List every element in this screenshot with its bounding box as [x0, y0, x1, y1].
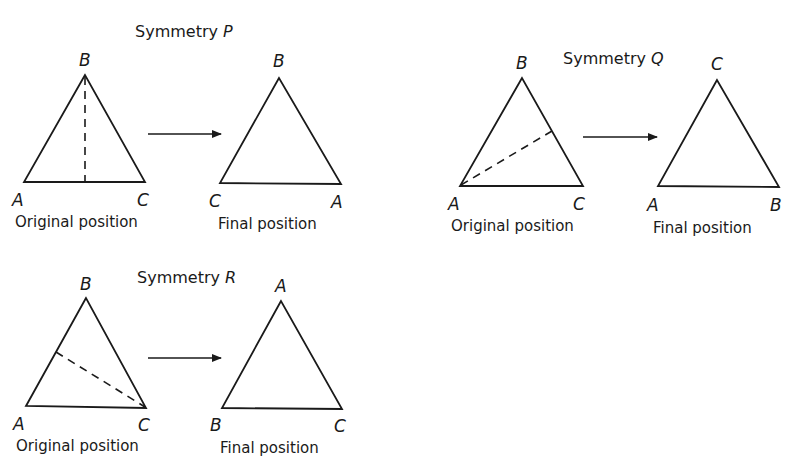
panel-symmetry-q: Symmetry Q B A C Original position C A B…: [447, 49, 782, 237]
caption: Final position: [653, 219, 752, 237]
vertex-label-top: B: [273, 51, 285, 71]
symmetry-axis: [461, 131, 552, 185]
symmetry-axis: [56, 352, 145, 407]
vertex-label-bottom-right: C: [137, 190, 149, 210]
vertex-label-top: A: [274, 276, 287, 296]
symmetry-diagram: Symmetry P B A C Original position B C A…: [0, 0, 802, 471]
vertex-label-bottom-right: C: [138, 415, 150, 435]
original-triangle: B A C Original position: [447, 53, 585, 235]
original-triangle: B A C Original position: [11, 50, 149, 231]
vertex-label-top: B: [79, 50, 91, 70]
final-triangle: A B C Final position: [210, 276, 346, 457]
triangle-shape: [222, 301, 342, 409]
vertex-label-bottom-left: A: [646, 195, 659, 215]
vertex-label-bottom-right: C: [573, 194, 585, 214]
final-triangle: B C A Final position: [209, 51, 343, 233]
triangle-shape: [26, 298, 146, 408]
vertex-label-bottom-left: C: [209, 191, 221, 211]
caption: Final position: [220, 439, 319, 457]
panel-title: Symmetry Q: [563, 49, 664, 68]
vertex-label-top: C: [711, 54, 723, 74]
panel-symmetry-p: Symmetry P B A C Original position B C A…: [11, 22, 343, 233]
caption: Original position: [15, 213, 138, 231]
caption: Final position: [218, 215, 317, 233]
panel-symmetry-r: Symmetry R B A C Original position A B C…: [12, 268, 346, 457]
triangle-shape: [460, 78, 583, 186]
caption: Original position: [16, 437, 139, 455]
vertex-label-bottom-left: B: [210, 415, 222, 435]
caption: Original position: [451, 217, 574, 235]
vertex-label-bottom-left: A: [12, 414, 25, 434]
panel-title: Symmetry R: [137, 268, 236, 287]
original-triangle: B A C Original position: [12, 274, 150, 455]
vertex-label-bottom-left: A: [11, 190, 24, 210]
panel-title: Symmetry P: [135, 22, 233, 41]
triangle-shape: [658, 80, 779, 187]
vertex-label-bottom-right: C: [334, 416, 346, 436]
triangle-shape: [220, 78, 341, 184]
vertex-label-bottom-left: A: [447, 194, 460, 214]
vertex-label-bottom-right: A: [330, 192, 343, 212]
vertex-label-top: B: [80, 274, 92, 294]
final-triangle: C A B Final position: [646, 54, 782, 237]
vertex-label-top: B: [516, 53, 528, 73]
vertex-label-bottom-right: B: [770, 195, 782, 215]
